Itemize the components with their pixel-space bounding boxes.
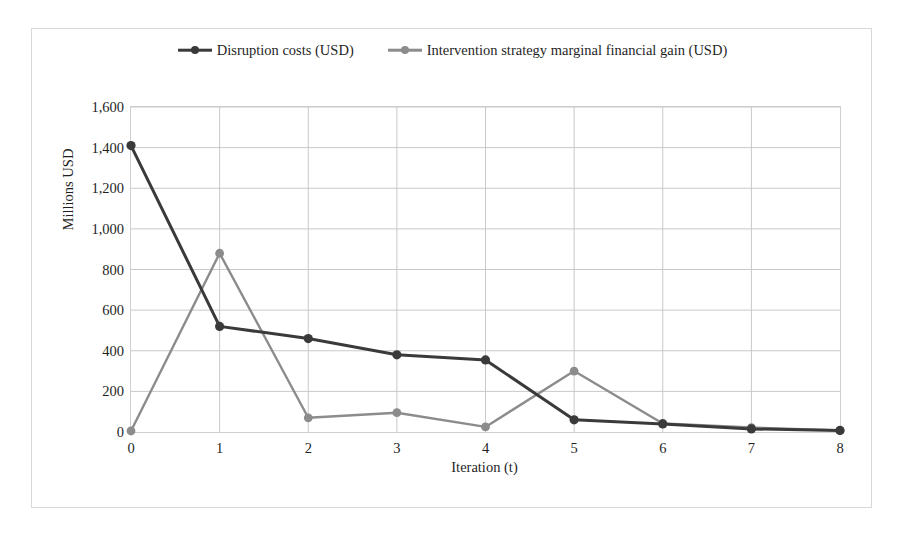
- legend-label-intervention-gain: Intervention strategy marginal financial…: [427, 43, 728, 58]
- legend-marker-icon: [178, 44, 212, 56]
- y-tick-label: 0: [117, 424, 124, 441]
- plot-area: 02004006008001,0001,2001,4001,6000123456…: [130, 106, 841, 433]
- legend-marker-icon: [388, 44, 422, 56]
- data-point-marker: [570, 415, 579, 424]
- x-axis-title: Iteration (t): [130, 459, 839, 476]
- x-tick-label: 4: [482, 440, 489, 457]
- y-tick-label: 400: [102, 342, 124, 359]
- y-tick-label: 1,400: [91, 139, 124, 156]
- data-point-marker: [127, 427, 136, 436]
- data-point-marker: [215, 322, 224, 331]
- y-tick-label: 800: [102, 261, 124, 278]
- x-tick-label: 5: [571, 440, 578, 457]
- data-point-marker: [658, 419, 667, 428]
- y-tick-label: 200: [102, 383, 124, 400]
- legend-item-intervention-gain[interactable]: Intervention strategy marginal financial…: [388, 43, 728, 58]
- data-point-marker: [747, 424, 756, 433]
- chart-legend: Disruption costs (USD) Intervention stra…: [32, 43, 873, 58]
- data-point-marker: [392, 350, 401, 359]
- series-intervention-gain: [127, 249, 845, 436]
- y-tick-label: 1,200: [91, 180, 124, 197]
- series-disruption-costs: [126, 141, 844, 435]
- legend-label-disruption-costs: Disruption costs (USD): [217, 43, 354, 58]
- x-tick-label: 0: [127, 440, 134, 457]
- x-tick-label: 6: [659, 440, 666, 457]
- data-point-marker: [126, 141, 135, 150]
- x-tick-label: 1: [216, 440, 223, 457]
- chart-figure: Disruption costs (USD) Intervention stra…: [31, 28, 872, 508]
- series-layer: [131, 107, 840, 432]
- data-point-marker: [392, 408, 401, 417]
- data-point-marker: [835, 426, 844, 435]
- y-tick-label: 600: [102, 302, 124, 319]
- y-tick-label: 1,000: [91, 220, 124, 237]
- x-tick-label: 3: [393, 440, 400, 457]
- data-point-marker: [215, 249, 224, 258]
- x-tick-label: 8: [836, 440, 843, 457]
- data-point-marker: [304, 334, 313, 343]
- legend-item-disruption-costs[interactable]: Disruption costs (USD): [178, 43, 354, 58]
- data-point-marker: [481, 355, 490, 364]
- x-tick-label: 7: [748, 440, 755, 457]
- x-tick-label: 2: [305, 440, 312, 457]
- data-point-marker: [570, 367, 579, 376]
- y-axis-title: Millions USD: [60, 110, 77, 270]
- data-point-marker: [304, 413, 313, 422]
- data-point-marker: [481, 423, 490, 432]
- y-tick-label: 1,600: [91, 99, 124, 116]
